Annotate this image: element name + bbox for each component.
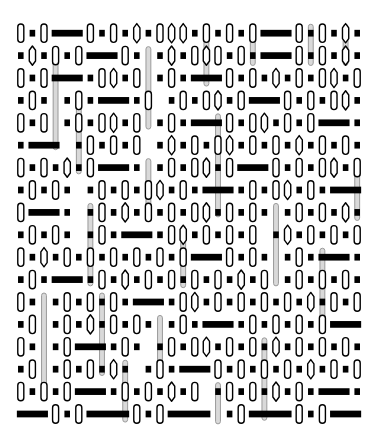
capsule-glyph	[273, 181, 279, 199]
capsule-glyph	[192, 203, 198, 221]
capsule-glyph	[111, 248, 117, 266]
black-square-glyph	[262, 187, 268, 194]
black-square-glyph	[169, 97, 175, 104]
black-bar-glyph	[237, 164, 268, 171]
capsule-glyph	[53, 46, 59, 64]
black-square-glyph	[157, 343, 163, 350]
capsule-glyph	[157, 24, 163, 42]
black-square-glyph	[76, 164, 82, 171]
capsule-glyph	[354, 293, 360, 311]
hex-capsule-glyph	[134, 24, 140, 43]
black-square-glyph	[262, 75, 268, 82]
black-square-glyph	[180, 75, 186, 82]
hex-capsule-glyph	[226, 136, 232, 155]
capsule-glyph	[180, 181, 186, 199]
gray-column-segment	[100, 293, 105, 375]
capsule-glyph	[261, 270, 267, 288]
capsule-glyph	[331, 293, 337, 311]
black-square-glyph	[227, 299, 233, 306]
capsule-glyph	[111, 293, 117, 311]
hex-capsule-glyph	[203, 46, 209, 65]
capsule-glyph	[157, 248, 163, 266]
black-square-glyph	[262, 388, 268, 395]
black-square-glyph	[320, 299, 326, 306]
hex-capsule-glyph	[29, 46, 35, 65]
capsule-glyph	[227, 24, 233, 42]
capsule-glyph	[285, 293, 291, 311]
capsule-glyph	[87, 293, 93, 311]
black-square-glyph	[308, 164, 314, 171]
black-square-glyph	[227, 366, 233, 373]
capsule-glyph	[53, 226, 59, 244]
black-square-glyph	[262, 209, 268, 216]
black-square-glyph	[250, 299, 256, 306]
black-square-glyph	[122, 366, 128, 373]
black-bar-glyph	[191, 75, 222, 82]
black-square-glyph	[285, 75, 291, 82]
black-square-glyph	[146, 254, 152, 261]
capsule-glyph	[319, 158, 325, 176]
capsule-glyph	[273, 136, 279, 154]
hex-capsule-glyph	[87, 315, 93, 334]
black-square-glyph	[238, 254, 244, 261]
capsule-glyph	[29, 91, 35, 109]
capsule-glyph	[99, 69, 105, 87]
black-square-glyph	[76, 321, 82, 328]
black-square-glyph	[296, 119, 302, 126]
capsule-glyph	[53, 181, 59, 199]
black-square-glyph	[331, 30, 337, 37]
black-square-glyph	[18, 187, 24, 194]
black-square-glyph	[180, 52, 186, 59]
black-square-glyph	[18, 97, 24, 104]
capsule-glyph	[227, 69, 233, 87]
hex-capsule-glyph	[308, 360, 314, 379]
black-square-glyph	[41, 187, 47, 194]
black-square-glyph	[308, 142, 314, 149]
capsule-glyph	[215, 136, 221, 154]
black-square-glyph	[76, 366, 82, 373]
black-square-glyph	[308, 276, 314, 283]
black-square-glyph	[30, 119, 36, 126]
black-square-glyph	[111, 231, 117, 238]
capsule-glyph	[18, 69, 24, 87]
capsule-glyph	[64, 315, 70, 333]
black-square-glyph	[41, 231, 47, 238]
capsule-glyph	[145, 91, 151, 109]
black-square-glyph	[88, 97, 94, 104]
capsule-glyph	[169, 69, 175, 87]
black-bar-glyph	[260, 52, 291, 59]
capsule-glyph	[134, 114, 140, 132]
capsule-glyph	[343, 136, 349, 154]
black-square-glyph	[134, 52, 140, 59]
black-square-glyph	[134, 187, 140, 194]
capsule-glyph	[192, 136, 198, 154]
capsule-glyph	[87, 158, 93, 176]
black-square-glyph	[64, 97, 70, 104]
capsule-glyph	[319, 46, 325, 64]
capsule-glyph	[99, 114, 105, 132]
black-square-glyph	[180, 276, 186, 283]
black-square-glyph	[157, 52, 163, 59]
black-square-glyph	[111, 343, 117, 350]
capsule-glyph	[169, 158, 175, 176]
black-square-glyph	[30, 75, 36, 82]
capsule-glyph	[180, 248, 186, 266]
black-bar-glyph	[86, 52, 117, 59]
black-square-glyph	[262, 343, 268, 350]
capsule-glyph	[64, 338, 70, 356]
black-square-glyph	[64, 119, 70, 126]
capsule-glyph	[122, 181, 128, 199]
capsule-glyph	[354, 158, 360, 176]
capsule-glyph	[87, 360, 93, 378]
hex-capsule-glyph	[168, 46, 174, 65]
capsule-glyph	[227, 248, 233, 266]
black-square-glyph	[111, 209, 117, 216]
capsule-glyph	[308, 181, 314, 199]
hex-capsule-glyph	[342, 203, 348, 222]
capsule-glyph	[180, 293, 186, 311]
capsule-glyph	[285, 360, 291, 378]
black-square-glyph	[273, 119, 279, 126]
black-square-glyph	[308, 254, 314, 261]
capsule-glyph	[18, 293, 24, 311]
black-square-glyph	[308, 411, 314, 418]
